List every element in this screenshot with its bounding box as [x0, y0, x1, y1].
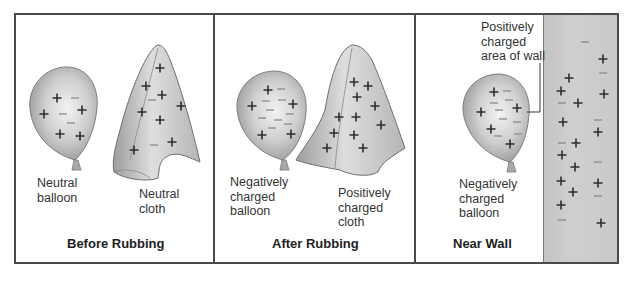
balloon-near-wall-label: Negatively charged balloon	[459, 177, 517, 221]
neutral-balloon-label: Neutral balloon	[37, 176, 77, 205]
panel-title-near-wall: Near Wall	[453, 236, 512, 251]
neutral-balloon	[30, 67, 97, 170]
panel-title-after-rubbing: After Rubbing	[272, 236, 359, 251]
neutral-cloth-label: Neutral cloth	[139, 187, 179, 216]
positively-charged-wall-label: Positively charged area of wall	[481, 20, 545, 64]
negatively-charged-balloon	[237, 71, 306, 170]
balloon-near-wall	[463, 74, 529, 172]
positively-charged-cloth	[296, 45, 405, 175]
positively-charged-cloth-label: Positively charged cloth	[338, 186, 391, 230]
panel-title-before-rubbing: Before Rubbing	[67, 236, 165, 251]
neutral-cloth	[113, 45, 200, 180]
negatively-charged-balloon-label: Negatively charged balloon	[230, 175, 288, 219]
wall-charges	[557, 42, 609, 228]
